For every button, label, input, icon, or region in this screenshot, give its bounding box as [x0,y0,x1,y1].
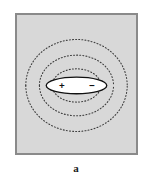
dipole-field-figure: + − a [0,0,152,178]
panel-caption: a [73,162,79,174]
caption-row: a [0,158,152,176]
positive-charge-label: + [59,80,65,91]
diagram-frame: + − [15,13,138,155]
dipole-body: + − [46,77,106,94]
dipole-ellipse [46,77,106,94]
negative-charge-label: − [89,80,95,91]
field-line-diagram: + − [17,15,136,153]
